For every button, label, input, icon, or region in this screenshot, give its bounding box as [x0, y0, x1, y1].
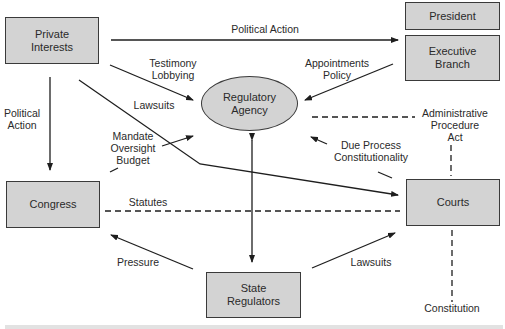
- label-mandate-oversight-budget: Mandate Oversight Budget: [103, 130, 163, 166]
- bottom-divider: [5, 325, 503, 329]
- node-courts: Courts: [406, 179, 500, 226]
- label-statutes: Statutes: [120, 196, 176, 208]
- label-pressure: Pressure: [108, 256, 168, 268]
- label-lawsuits-state: Lawsuits: [341, 256, 401, 268]
- node-regulatory-agency: Regulatory Agency: [201, 76, 298, 131]
- node-congress: Congress: [6, 181, 100, 228]
- node-president: President: [405, 2, 500, 30]
- label-testimony-lobbying: Testimony Lobbying: [138, 57, 208, 81]
- label-due-process-constitutionality: Due Process Constitutionality: [321, 139, 421, 163]
- label-political-action-top: Political Action: [210, 23, 320, 35]
- label-constitution: Constitution: [414, 302, 490, 314]
- node-executive-branch: Executive Branch: [405, 35, 500, 81]
- label-administrative-procedure-act: Administrative Procedure Act: [410, 107, 500, 143]
- regulatory-relationships-diagram: Private Interests President Executive Br…: [0, 0, 505, 329]
- node-state-regulators: State Regulators: [206, 272, 301, 318]
- label-political-action-left: Political Action: [0, 107, 44, 131]
- label-lawsuits-private: Lawsuits: [126, 99, 182, 111]
- line-mandate-tail: [110, 168, 118, 172]
- node-private-interests: Private Interests: [5, 17, 99, 64]
- line-due-process-tail: [378, 172, 392, 178]
- label-appointments-policy: Appointments Policy: [297, 57, 377, 81]
